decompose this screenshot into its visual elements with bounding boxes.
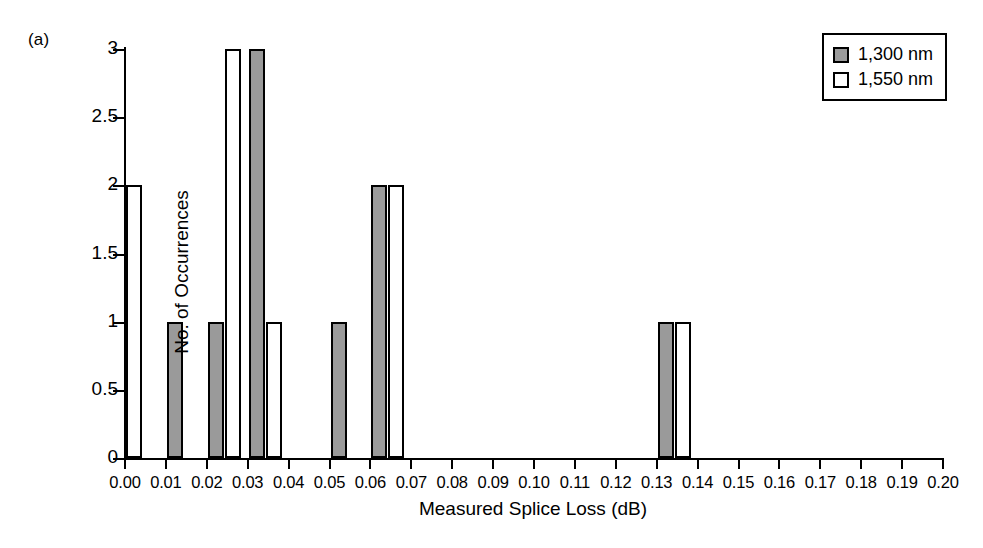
legend-entry-1300: 1,300 nm <box>833 42 933 67</box>
bar <box>371 185 387 458</box>
x-tick-mark <box>492 458 494 469</box>
bar <box>225 49 241 458</box>
x-tick-mark <box>533 458 535 469</box>
panel-label: (a) <box>28 30 49 50</box>
x-tick-mark <box>901 458 903 469</box>
x-tick-label: 0.20 <box>927 473 958 492</box>
x-tick-label: 0.05 <box>314 473 345 492</box>
y-tick-label: 3 <box>107 37 118 59</box>
legend: 1,300 nm 1,550 nm <box>822 33 947 101</box>
x-tick-label: 0.03 <box>232 473 263 492</box>
x-tick-mark <box>369 458 371 469</box>
y-tick-label: 2 <box>107 173 118 195</box>
bar <box>675 322 691 458</box>
x-tick-mark <box>697 458 699 469</box>
x-tick-mark <box>124 458 126 469</box>
figure-panel-a: (a) 00.511.522.53 0.000.010.020.030.040.… <box>0 0 983 548</box>
y-axis-title: No. of Occurrences <box>171 122 193 422</box>
x-tick-label: 0.01 <box>150 473 181 492</box>
x-tick-label: 0.16 <box>764 473 795 492</box>
x-tick-label: 0.06 <box>355 473 386 492</box>
x-tick-mark <box>410 458 412 469</box>
y-tick-label: 2.5 <box>92 105 118 127</box>
x-tick-mark <box>288 458 290 469</box>
x-tick-label: 0.13 <box>641 473 672 492</box>
x-tick-mark <box>778 458 780 469</box>
x-tick-label: 0.14 <box>682 473 713 492</box>
x-tick-mark <box>329 458 331 469</box>
legend-label-1550: 1,550 nm <box>858 69 933 90</box>
x-tick-label: 0.00 <box>109 473 140 492</box>
x-tick-mark <box>942 458 944 469</box>
x-tick-mark <box>656 458 658 469</box>
y-tick-label: 0.5 <box>92 378 118 400</box>
bar <box>208 322 224 458</box>
x-tick-mark <box>451 458 453 469</box>
bar <box>331 322 347 458</box>
x-tick-label: 0.12 <box>600 473 631 492</box>
bar <box>658 322 674 458</box>
legend-label-1300: 1,300 nm <box>858 44 933 65</box>
x-tick-label: 0.11 <box>560 473 590 492</box>
x-tick-label: 0.09 <box>477 473 508 492</box>
y-tick-label: 0 <box>107 446 118 468</box>
x-tick-label: 0.18 <box>846 473 877 492</box>
x-tick-label: 0.19 <box>886 473 917 492</box>
x-tick-label: 0.15 <box>723 473 754 492</box>
x-axis-title: Measured Splice Loss (dB) <box>124 498 942 520</box>
legend-swatch-icon-1300 <box>833 47 849 63</box>
legend-swatch-icon-1550 <box>833 72 849 88</box>
x-tick-label: 0.02 <box>191 473 222 492</box>
x-tick-mark <box>574 458 576 469</box>
x-tick-mark <box>860 458 862 469</box>
x-tick-mark <box>206 458 208 469</box>
x-tick-label: 0.10 <box>518 473 549 492</box>
x-tick-label: 0.17 <box>805 473 836 492</box>
x-tick-label: 0.07 <box>396 473 427 492</box>
x-tick-mark <box>247 458 249 469</box>
plot-area: 00.511.522.53 0.000.010.020.030.040.050.… <box>124 47 942 460</box>
bar <box>249 49 265 458</box>
x-tick-mark <box>165 458 167 469</box>
bar <box>388 185 404 458</box>
x-tick-label: 0.04 <box>273 473 304 492</box>
bar <box>126 185 142 458</box>
x-tick-label: 0.08 <box>437 473 468 492</box>
x-tick-mark <box>819 458 821 469</box>
y-tick-label: 1.5 <box>92 242 118 264</box>
x-tick-mark <box>738 458 740 469</box>
y-tick-label: 1 <box>107 310 118 332</box>
legend-entry-1550: 1,550 nm <box>833 67 933 92</box>
x-tick-mark <box>615 458 617 469</box>
bar <box>266 322 282 458</box>
